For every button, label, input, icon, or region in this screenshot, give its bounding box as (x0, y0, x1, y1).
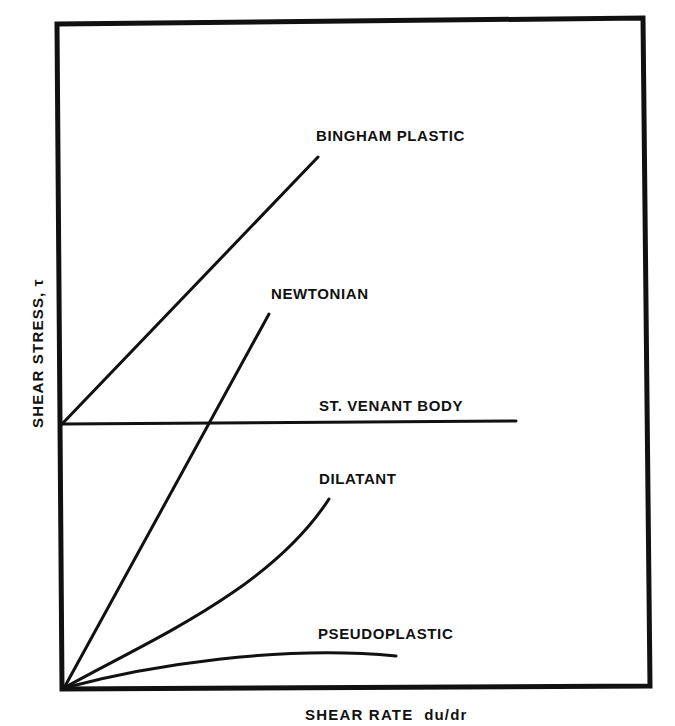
dilatant-curve (64, 499, 329, 688)
rheology-chart: BINGHAM PLASTIC NEWTONIAN ST. VENANT BOD… (0, 0, 675, 726)
y-axis-label: SHEAR STRESS, τ (29, 278, 46, 428)
st-venant-line (62, 421, 516, 424)
x-axis-label: SHEAR RATE du/dr (305, 706, 468, 723)
newtonian-label: NEWTONIAN (271, 285, 369, 302)
st-venant-label: ST. VENANT BODY (319, 397, 463, 414)
dilatant-label: DILATANT (319, 470, 397, 487)
pseudoplastic-label: PSEUDOPLASTIC (318, 625, 453, 642)
plot-frame (57, 18, 650, 689)
bingham-plastic-label: BINGHAM PLASTIC (316, 127, 465, 144)
pseudoplastic-curve (64, 653, 396, 688)
